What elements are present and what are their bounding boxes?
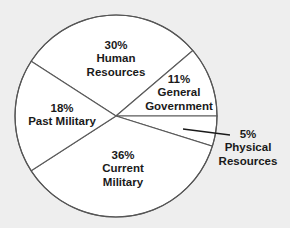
pie-chart: 30% Human Resources 11% General Governme… <box>0 0 290 228</box>
name-human-resources-2: Resources <box>87 66 146 78</box>
name-general-government-2: Government <box>145 100 213 112</box>
name-physical-resources-1: Physical <box>225 141 272 153</box>
name-current-military-1: Current <box>102 162 144 174</box>
pct-past-military: 18% <box>50 102 73 114</box>
pct-physical-resources: 5% <box>240 128 257 140</box>
pct-current-military: 36% <box>111 149 134 161</box>
name-past-military: Past Military <box>28 115 96 127</box>
pct-human-resources: 30% <box>104 39 127 51</box>
name-general-government-1: General <box>158 86 201 98</box>
label-physical-resources: 5% Physical Resources <box>219 128 278 167</box>
name-physical-resources-2: Resources <box>219 155 278 167</box>
pct-general-government: 11% <box>168 73 190 85</box>
name-human-resources-1: Human <box>97 52 136 64</box>
name-current-military-2: Military <box>103 176 144 188</box>
